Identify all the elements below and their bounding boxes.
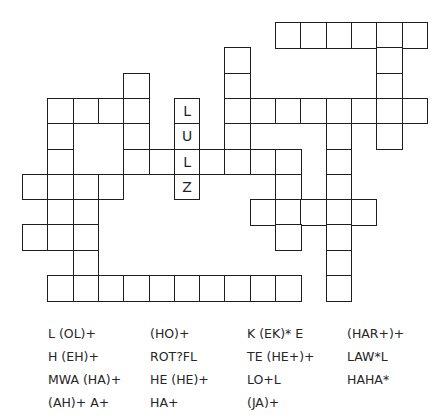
clue: H (EH)+	[48, 345, 121, 368]
grid-cell[interactable]	[326, 250, 353, 277]
given-letter-cell: L	[174, 149, 201, 176]
grid-cell[interactable]	[224, 149, 251, 176]
grid-cell[interactable]	[123, 123, 150, 150]
grid-cell[interactable]	[47, 98, 74, 125]
grid-cell[interactable]	[98, 174, 125, 201]
grid-cell[interactable]	[275, 199, 302, 226]
grid-cell[interactable]	[351, 98, 378, 125]
grid-cell[interactable]	[73, 250, 100, 277]
grid-cell[interactable]	[326, 199, 353, 226]
grid-cell[interactable]	[300, 98, 327, 125]
grid-cell[interactable]	[98, 275, 125, 302]
grid-cell[interactable]	[123, 98, 150, 125]
given-letter-cell: U	[174, 123, 201, 150]
grid-cell[interactable]	[326, 224, 353, 251]
clue: L (OL)+	[48, 322, 121, 345]
grid-cell[interactable]	[376, 22, 403, 49]
grid-cell[interactable]	[250, 149, 277, 176]
grid-cell[interactable]	[326, 174, 353, 201]
grid-cell[interactable]	[275, 98, 302, 125]
grid-cell[interactable]	[123, 73, 150, 100]
grid-cell[interactable]	[326, 123, 353, 150]
grid-cell[interactable]	[47, 174, 74, 201]
grid-cell[interactable]	[275, 174, 302, 201]
grid-cell[interactable]	[73, 174, 100, 201]
grid-cell[interactable]	[326, 275, 353, 302]
grid-cell[interactable]	[275, 149, 302, 176]
grid-cell[interactable]	[376, 47, 403, 74]
clue-column-2: (HO)+ ROT?FL HE (HE)+ HA+	[150, 322, 209, 414]
grid-cell[interactable]	[224, 123, 251, 150]
grid-cell[interactable]	[47, 199, 74, 226]
grid-cell[interactable]	[402, 98, 429, 125]
grid-cell[interactable]	[47, 224, 74, 251]
grid-cell[interactable]	[47, 123, 74, 150]
grid-cell[interactable]	[250, 98, 277, 125]
clue: TE (HE+)+	[247, 345, 315, 368]
clue: (AH)+ A+	[48, 391, 121, 414]
grid-cell[interactable]	[199, 149, 226, 176]
clue-column-1: L (OL)+ H (EH)+ MWA (HA)+ (AH)+ A+	[48, 322, 121, 414]
grid-cell[interactable]	[73, 98, 100, 125]
clue: ROT?FL	[150, 345, 209, 368]
clue-column-3: K (EK)* E TE (HE+)+ LO+L (JA)+	[247, 322, 315, 414]
grid-cell[interactable]	[275, 275, 302, 302]
grid-cell[interactable]	[376, 123, 403, 150]
grid-cell[interactable]	[351, 22, 378, 49]
grid-cell[interactable]	[250, 275, 277, 302]
grid-cell[interactable]	[199, 275, 226, 302]
grid-cell[interactable]	[73, 224, 100, 251]
clue: LO+L	[247, 368, 315, 391]
clue: LAW*L	[347, 345, 404, 368]
clue-list: L (OL)+ H (EH)+ MWA (HA)+ (AH)+ A+ (HO)+…	[0, 322, 446, 418]
clue: MWA (HA)+	[48, 368, 121, 391]
clue: (JA)+	[247, 391, 315, 414]
given-letter-cell: Z	[174, 174, 201, 201]
grid-cell[interactable]	[149, 275, 176, 302]
clue: HE (HE)+	[150, 368, 209, 391]
grid-cell[interactable]	[123, 149, 150, 176]
grid-cell[interactable]	[47, 149, 74, 176]
grid-cell[interactable]	[376, 98, 403, 125]
grid-cell[interactable]	[376, 73, 403, 100]
grid-cell[interactable]	[275, 22, 302, 49]
clue: K (EK)* E	[247, 322, 315, 345]
grid-cell[interactable]	[149, 149, 176, 176]
grid-cell[interactable]	[47, 275, 74, 302]
clue: HA+	[150, 391, 209, 414]
grid-cell[interactable]	[73, 275, 100, 302]
grid-cell[interactable]	[22, 174, 49, 201]
grid-cell[interactable]	[224, 73, 251, 100]
grid-cell[interactable]	[300, 199, 327, 226]
grid-cell[interactable]	[73, 199, 100, 226]
crossword-grid: LULZ	[0, 0, 446, 320]
grid-cell[interactable]	[174, 275, 201, 302]
clue: (HO)+	[150, 322, 209, 345]
grid-cell[interactable]	[275, 224, 302, 251]
grid-cell[interactable]	[326, 98, 353, 125]
clue: HAHA*	[347, 368, 404, 391]
clue-column-4: (HAR+)+ LAW*L HAHA*	[347, 322, 404, 391]
grid-cell[interactable]	[22, 224, 49, 251]
grid-cell[interactable]	[250, 199, 277, 226]
grid-cell[interactable]	[351, 199, 378, 226]
grid-cell[interactable]	[300, 22, 327, 49]
grid-cell[interactable]	[402, 22, 429, 49]
grid-cell[interactable]	[224, 98, 251, 125]
grid-cell[interactable]	[123, 275, 150, 302]
grid-cell[interactable]	[224, 47, 251, 74]
grid-cell[interactable]	[326, 22, 353, 49]
given-letter-cell: L	[174, 98, 201, 125]
grid-cell[interactable]	[326, 149, 353, 176]
grid-cell[interactable]	[224, 275, 251, 302]
clue: (HAR+)+	[347, 322, 404, 345]
grid-cell[interactable]	[98, 98, 125, 125]
